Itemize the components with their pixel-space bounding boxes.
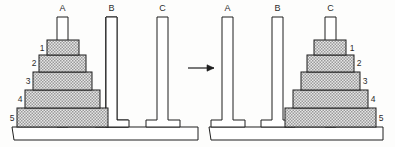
base-platform-right: [209, 127, 383, 140]
disk-1-left[interactable]: [47, 40, 79, 55]
disk-5-right[interactable]: [285, 108, 376, 127]
peg-label-c-left: C: [159, 3, 166, 13]
disk-label-5-left: 5: [10, 113, 15, 123]
disk-label-5-right: 5: [379, 113, 384, 123]
disk-label-4-left: 4: [18, 94, 23, 104]
disk-2-left[interactable]: [39, 55, 86, 72]
peg-label-a-left: A: [59, 3, 65, 13]
peg-label-b-left: B: [108, 3, 114, 13]
disk-1-right[interactable]: [314, 40, 346, 55]
disk-4-right[interactable]: [293, 90, 368, 108]
disk-2-right[interactable]: [307, 55, 354, 72]
disk-label-2-left: 2: [32, 58, 37, 68]
disk-label-1-left: 1: [40, 43, 45, 53]
disk-3-right[interactable]: [301, 72, 360, 90]
hanoi-canvas: A B C 5 4 3 2 1 A: [0, 0, 395, 147]
peg-label-c-right: C: [327, 3, 334, 13]
peg-label-a-right: A: [224, 3, 230, 13]
disk-3-left[interactable]: [33, 72, 92, 90]
disk-label-4-right: 4: [371, 94, 376, 104]
disk-label-1-right: 1: [350, 43, 355, 53]
hanoi-figure: A B C 5 4 3 2 1 A: [0, 0, 395, 147]
peg-label-b-right: B: [274, 3, 280, 13]
disk-4-left[interactable]: [25, 90, 100, 108]
disk-5-left[interactable]: [17, 108, 108, 127]
disk-label-3-left: 3: [26, 76, 31, 86]
disk-label-3-right: 3: [363, 76, 368, 86]
disk-label-2-right: 2: [357, 58, 362, 68]
base-platform-left: [12, 127, 198, 140]
